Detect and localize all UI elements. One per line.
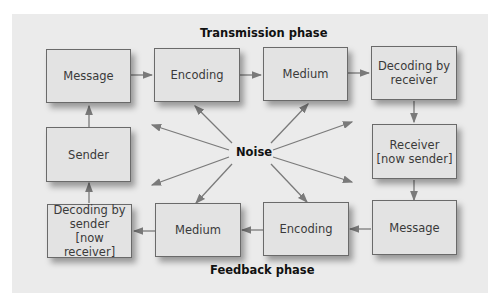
transmission-phase-title: Transmission phase bbox=[200, 26, 328, 40]
box-decoding-by-sender: Decoding by sender [now receiver] bbox=[47, 204, 132, 258]
feedback-phase-title: Feedback phase bbox=[210, 263, 315, 277]
box-encoding-feedback: Encoding bbox=[263, 202, 349, 256]
box-encoding-transmission: Encoding bbox=[154, 48, 240, 102]
box-message-transmission: Message bbox=[46, 49, 131, 103]
box-sender: Sender bbox=[46, 127, 131, 182]
box-message-feedback: Message bbox=[372, 200, 457, 255]
noise-label: Noise bbox=[236, 145, 272, 159]
box-medium-transmission: Medium bbox=[263, 47, 348, 101]
box-decoding-by-receiver: Decoding by receiver bbox=[371, 46, 457, 100]
box-medium-feedback: Medium bbox=[155, 203, 241, 257]
box-receiver-now-sender: Receiver [now sender] bbox=[372, 124, 457, 179]
